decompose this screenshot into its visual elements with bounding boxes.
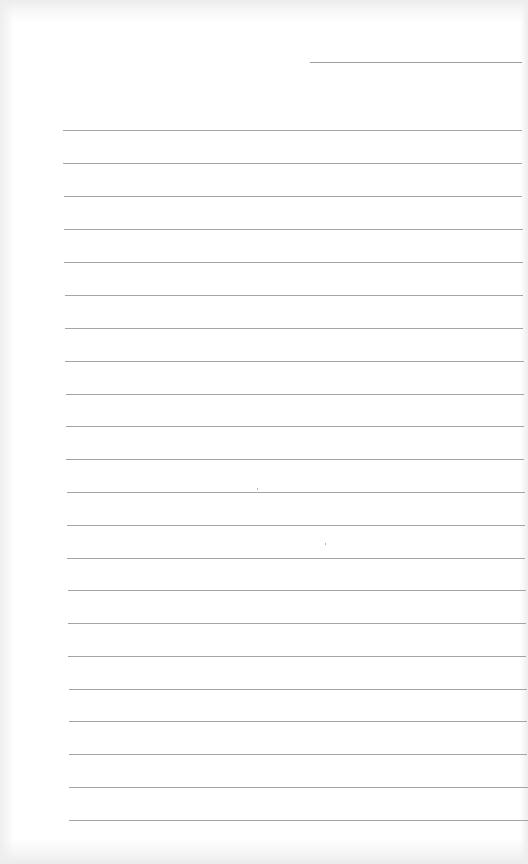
ruled-line: [68, 590, 526, 591]
ruled-line: [66, 426, 524, 427]
scan-speck: [257, 488, 258, 490]
ruled-line: [69, 820, 528, 821]
header-line: [310, 62, 522, 63]
ruled-line: [67, 525, 525, 526]
ruled-line: [69, 754, 527, 755]
lined-paper-page: [0, 0, 528, 864]
page-left-shadow: [0, 0, 14, 864]
ruled-line: [66, 394, 524, 395]
ruled-line: [68, 623, 526, 624]
ruled-line: [67, 492, 525, 493]
ruled-line: [65, 361, 524, 362]
ruled-line: [66, 459, 524, 460]
ruled-line: [68, 656, 526, 657]
ruled-line: [67, 558, 525, 559]
ruled-line: [63, 130, 522, 131]
scan-speck: [325, 543, 326, 545]
ruled-line: [65, 295, 523, 296]
ruled-line: [69, 787, 528, 788]
ruled-line: [64, 196, 522, 197]
ruled-line: [63, 163, 522, 164]
ruled-line: [64, 229, 523, 230]
ruled-line: [69, 721, 527, 722]
ruled-line: [65, 328, 523, 329]
ruled-line: [69, 689, 527, 690]
ruled-line: [64, 262, 523, 263]
